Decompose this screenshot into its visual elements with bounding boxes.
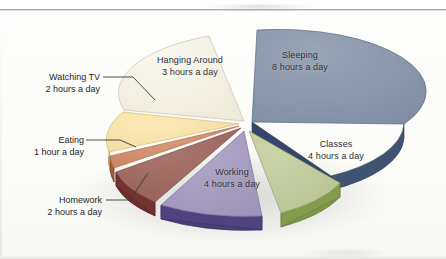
slice-label-classes-value: 4 hours a day [288, 151, 384, 163]
slice-label-sleeping-value: 8 hours a day [252, 62, 348, 74]
slice-label-working: Working 4 hours a day [184, 167, 280, 190]
callout-homework-value: 2 hours a day [2, 206, 102, 218]
slice-top-hanging-around [118, 36, 244, 121]
callout-label-watching-tv: Watching TV 2 hours a day [2, 71, 100, 95]
slice-label-working-value: 4 hours a day [184, 179, 280, 191]
callout-label-homework: Homework 2 hours a day [2, 194, 102, 218]
slice-label-classes-name: Classes [288, 139, 384, 151]
slice-label-classes: Classes 4 hours a day [288, 139, 384, 162]
slice-label-hanging-around-name: Hanging Around [134, 55, 246, 67]
scanned-page: Sleeping 8 hours a day Classes 4 hours a… [0, 0, 446, 259]
callout-homework-name: Homework [2, 194, 102, 206]
callout-watching-tv-value: 2 hours a day [2, 83, 100, 95]
callout-label-eating: Eating 1 hour a day [2, 134, 84, 158]
slice-label-sleeping: Sleeping 8 hours a day [252, 50, 348, 73]
callout-eating-value: 1 hour a day [2, 146, 84, 158]
callout-watching-tv-name: Watching TV [2, 71, 100, 83]
slice-label-hanging-around-value: 3 hours a day [134, 67, 246, 79]
callout-eating-name: Eating [2, 134, 84, 146]
slice-top-sleeping [252, 29, 426, 124]
slice-label-hanging-around: Hanging Around 3 hours a day [134, 55, 246, 78]
slice-label-working-name: Working [184, 167, 280, 179]
pie-chart-graphic [0, 0, 446, 259]
slice-label-sleeping-name: Sleeping [252, 50, 348, 62]
pie-chart: Sleeping 8 hours a day Classes 4 hours a… [0, 0, 446, 259]
